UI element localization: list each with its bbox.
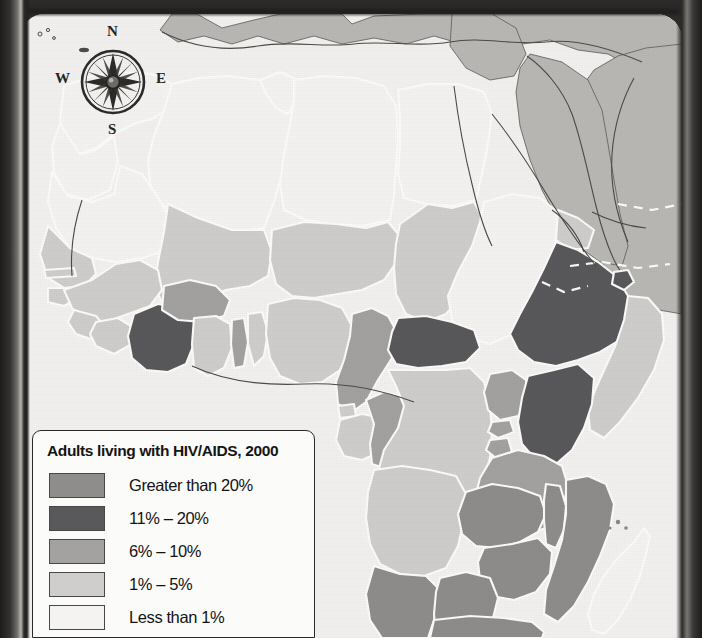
scanned-map-page: N S W E Adults living with HIV/AIDS, 200… (0, 0, 702, 638)
compass-label-south: S (108, 121, 116, 138)
legend-swatch-6-10 (49, 539, 105, 564)
legend-label-gt20: Greater than 20% (129, 476, 253, 495)
island-comoros (616, 520, 620, 524)
country-angola (366, 466, 466, 576)
island-moheli (608, 526, 611, 529)
compass-label-west: W (55, 70, 70, 87)
country-togo (231, 318, 248, 368)
legend-swatch-gt20 (49, 473, 105, 498)
island-mayotte (624, 526, 628, 530)
compass-label-north: N (107, 23, 118, 40)
legend-swatch-lt1 (49, 605, 105, 630)
compass-label-east: E (156, 70, 166, 87)
compass-rose: N S W E (52, 22, 174, 142)
map-legend: Adults living with HIV/AIDS, 2000 Greate… (32, 430, 315, 638)
legend-item-6-10: 6% – 10% (49, 535, 314, 568)
country-egypt (398, 84, 492, 206)
legend-swatch-11-20 (49, 506, 105, 531)
country-libya (280, 76, 398, 226)
legend-swatch-1-5 (49, 572, 105, 597)
legend-label-1-5: 1% – 5% (129, 575, 192, 594)
legend-item-1-5: 1% – 5% (49, 568, 314, 601)
legend-item-lt1: Less than 1% (49, 601, 314, 634)
legend-label-6-10: 6% – 10% (129, 542, 201, 561)
legend-item-gt20: Greater than 20% (49, 469, 314, 502)
legend-label-11-20: 11% – 20% (129, 509, 209, 528)
legend-label-lt1: Less than 1% (129, 608, 224, 627)
legend-title: Adults living with HIV/AIDS, 2000 (47, 442, 314, 460)
legend-item-11-20: 11% – 20% (49, 502, 314, 535)
